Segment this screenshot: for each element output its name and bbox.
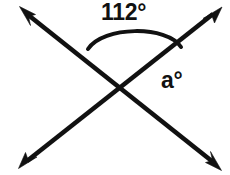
geometry-diagram: 112° a° bbox=[0, 0, 230, 175]
figure-canvas bbox=[0, 0, 230, 175]
arrow-down-right-icon bbox=[206, 152, 222, 171]
angle-arc-icon bbox=[88, 31, 181, 49]
upper-angle-label: 112° bbox=[101, 1, 146, 24]
right-angle-label: a° bbox=[161, 69, 182, 92]
